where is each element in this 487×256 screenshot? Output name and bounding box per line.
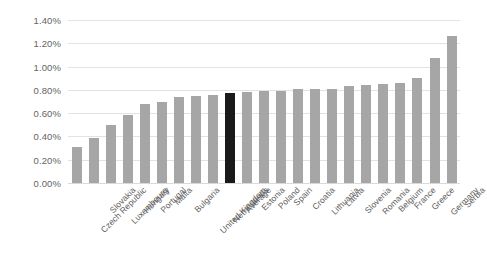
plot-area [68, 20, 460, 183]
bar-slot [290, 20, 307, 183]
bar-slot [375, 20, 392, 183]
bar[interactable] [395, 83, 405, 183]
bar[interactable] [208, 95, 218, 183]
x-axis-tick-label: Malta [172, 185, 194, 207]
bar-slot [119, 20, 136, 183]
bar[interactable] [259, 91, 269, 183]
bar-slot [136, 20, 153, 183]
bar-slot [426, 20, 443, 183]
bar[interactable] [72, 147, 82, 183]
bar[interactable] [191, 96, 201, 183]
bar[interactable] [412, 78, 422, 183]
y-axis-tick-label: 1.20% [34, 38, 61, 49]
bar-slot [221, 20, 238, 183]
bar-slot [358, 20, 375, 183]
bar[interactable] [157, 102, 167, 184]
x-axis: Czech RepublicSlovakiaLuxembourgHungaryP… [68, 185, 460, 256]
bar[interactable] [89, 138, 99, 183]
bar-slot [409, 20, 426, 183]
bar-slot [324, 20, 341, 183]
bar[interactable] [310, 89, 320, 183]
y-axis-tick-label: 0.80% [34, 84, 61, 95]
bar[interactable] [378, 84, 388, 183]
bar-slot [443, 20, 460, 183]
bar[interactable] [106, 125, 116, 183]
bar[interactable] [140, 104, 150, 183]
y-axis-tick-label: 0.20% [34, 154, 61, 165]
bar[interactable] [123, 115, 133, 183]
bar[interactable] [430, 58, 440, 183]
bar-slot [102, 20, 119, 183]
bar-series [68, 20, 460, 183]
y-axis-tick-label: 0.00% [34, 178, 61, 189]
x-axis-tick-label: Bulgaria [192, 185, 221, 214]
bar[interactable] [327, 89, 337, 183]
y-axis-tick-label: 0.40% [34, 131, 61, 142]
bar-slot [392, 20, 409, 183]
y-axis: 1.40%1.20%1.00%0.80%0.60%0.40%0.20%0.00% [0, 0, 68, 256]
bar-slot [256, 20, 273, 183]
y-axis-tick-label: 1.40% [34, 15, 61, 26]
bar-slot [187, 20, 204, 183]
bar-slot [85, 20, 102, 183]
bar[interactable] [276, 91, 286, 183]
bar[interactable] [293, 89, 303, 183]
y-axis-tick-label: 1.00% [34, 61, 61, 72]
bar[interactable] [361, 85, 371, 183]
gridline [68, 183, 460, 184]
x-axis-tick-label: Latvia [343, 185, 366, 208]
y-axis-tick-label: 0.60% [34, 108, 61, 119]
x-axis-tick-label: Serbia [463, 185, 487, 210]
bar-slot [204, 20, 221, 183]
bar-average[interactable] [225, 93, 235, 183]
bar-slot [153, 20, 170, 183]
bar[interactable] [344, 86, 354, 183]
bar-slot [341, 20, 358, 183]
bar-slot [307, 20, 324, 183]
bar-slot [170, 20, 187, 183]
bar[interactable] [174, 97, 184, 183]
bar-slot [68, 20, 85, 183]
bar[interactable] [242, 92, 252, 183]
bar[interactable] [447, 36, 457, 183]
bar-slot [273, 20, 290, 183]
bar-slot [238, 20, 255, 183]
